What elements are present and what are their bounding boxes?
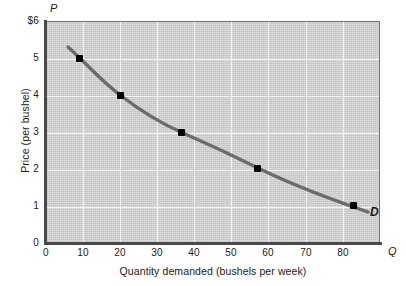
curve-label-d: D: [370, 206, 379, 218]
gridline-horizontal-3: [46, 133, 379, 134]
data-point-marker: [254, 165, 261, 172]
x-tick-label: 0: [31, 248, 61, 258]
gridline-vertical-20: [120, 22, 121, 243]
y-axis-symbol: P: [50, 3, 57, 14]
plot-area: [46, 21, 380, 243]
x-tick-label: 30: [142, 248, 172, 258]
gridline-horizontal-1: [46, 207, 379, 208]
data-point-marker: [117, 92, 124, 99]
gridline-vertical-80: [343, 22, 344, 243]
gridline-vertical-10: [83, 22, 84, 243]
gridline-vertical-70: [306, 22, 307, 243]
y-axis-title: Price (per bushel): [20, 46, 31, 216]
x-tick-label: 40: [179, 248, 209, 258]
x-tick-label: 80: [328, 248, 358, 258]
x-axis-symbol: Q: [388, 246, 397, 257]
y-tick-label: $6: [0, 16, 44, 26]
gridline-vertical-60: [268, 22, 269, 243]
x-tick-label: 50: [216, 248, 246, 258]
data-point-marker: [178, 129, 185, 136]
gridline-vertical-30: [157, 22, 158, 243]
x-tick-label: 60: [253, 248, 283, 258]
gridline-vertical-50: [231, 22, 232, 243]
gridline-horizontal-5: [46, 59, 379, 60]
gridline-horizontal-4: [46, 96, 379, 97]
data-point-marker: [350, 202, 357, 209]
x-tick-label: 70: [291, 248, 321, 258]
x-axis-title: Quantity demanded (bushels per week): [46, 266, 380, 277]
x-tick-label: 10: [68, 248, 98, 258]
y-axis-line: [44, 20, 47, 245]
gridline-horizontal-2: [46, 170, 379, 171]
data-point-marker: [76, 55, 83, 62]
demand-curve-figure: D P Q $6 5 4 3 2 1 0 0 10 20 30 40 50 60…: [0, 0, 406, 286]
x-tick-label: 20: [105, 248, 135, 258]
x-axis-line: [44, 242, 382, 245]
gridline-vertical-40: [194, 22, 195, 243]
y-tick-label: 0: [0, 238, 44, 248]
